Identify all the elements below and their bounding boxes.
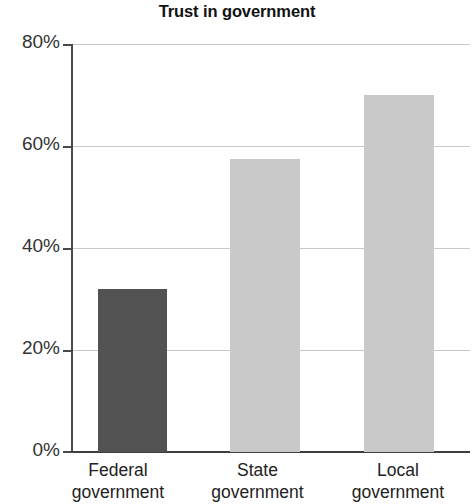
bar-chart: Trust in government 80% 60% 40% 20% 0% F… xyxy=(0,0,474,504)
x-tick-label-federal-line2: government xyxy=(38,481,198,503)
bar-local-government xyxy=(364,95,434,452)
x-tick-label-state-line2: government xyxy=(185,481,330,503)
x-tick-label-local-line2: government xyxy=(324,481,472,503)
bar-federal-government xyxy=(98,289,167,452)
y-tick-label-40: 40% xyxy=(2,235,60,257)
y-tick-label-60: 60% xyxy=(2,133,60,155)
y-axis-tick-labels: 80% 60% 40% 20% 0% xyxy=(0,0,60,504)
y-tick-label-80: 80% xyxy=(2,31,60,53)
x-tick-label-local-line1: Local xyxy=(377,460,419,480)
x-tick-label-local-government: Local government xyxy=(324,459,472,503)
x-tick-label-federal-government: Federal government xyxy=(38,459,198,503)
bar-state-government xyxy=(230,159,300,452)
x-tick-label-state-government: State government xyxy=(185,459,330,503)
y-tick-label-20: 20% xyxy=(2,337,60,359)
plot-area xyxy=(73,44,470,452)
gridline-80 xyxy=(73,44,470,45)
chart-title: Trust in government xyxy=(0,2,474,21)
x-tick-label-federal-line1: Federal xyxy=(88,460,147,480)
y-tick-label-0: 0% xyxy=(2,439,60,461)
x-tick-label-state-line1: State xyxy=(237,460,278,480)
